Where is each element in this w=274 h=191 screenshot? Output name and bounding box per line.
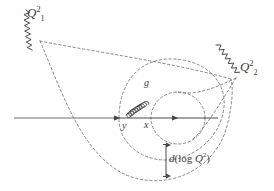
label-q2-superscript: 2 [249,59,253,68]
label-q1-subscript: 1 [40,14,44,23]
label-q1-base: Q [27,5,36,20]
label-q1-superscript: 2 [36,5,40,14]
label-d-log: log [178,152,192,164]
q2-tangent-dashed-lines [176,78,236,140]
label-d-q: Q [195,152,203,164]
label-q2-base: Q [240,59,249,74]
feynman-diagram-figure: Q21 Q22 g y x d(log Q2) [0,0,274,191]
diagram-canvas [0,0,274,191]
label-d-log-q-squared: d(log Q2) [169,152,210,164]
label-gluon: g [144,78,149,88]
label-d-close-paren: ) [206,152,210,164]
label-momentum-fraction-x: x [144,120,148,130]
label-q2-subscript: 2 [253,68,257,77]
label-q1-virtuality: Q21 [27,6,44,23]
gluon-coil-line [126,101,149,117]
photon-line-q2 [216,45,240,73]
label-q2-virtuality: Q22 [240,60,257,77]
label-momentum-fraction-y: y [122,121,126,131]
